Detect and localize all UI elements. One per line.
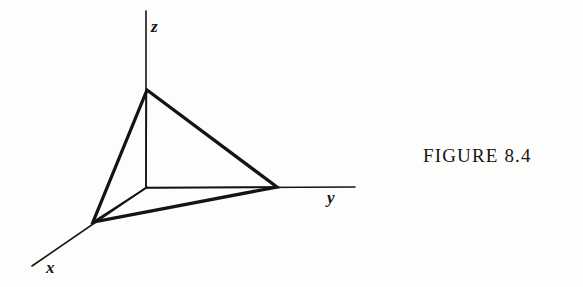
y-axis-label: y [327,189,335,206]
figure-page: z y x FIGURE 8.4 [0,0,583,287]
intercept-plane-triangle [93,90,277,222]
coordinate-axes-diagram [0,0,583,287]
x-axis-label: x [46,259,55,276]
origin-to-z-intercept-line [146,90,147,188]
figure-caption: FIGURE 8.4 [423,146,532,165]
z-axis-label: z [151,18,158,35]
origin-to-y-intercept-line [146,187,277,188]
